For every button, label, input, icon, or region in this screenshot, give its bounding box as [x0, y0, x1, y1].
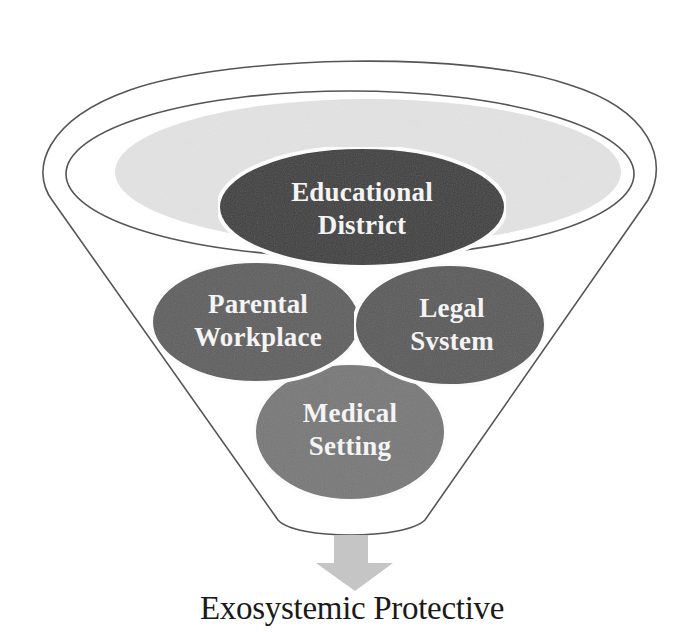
label-medical-setting-line2: Setting: [303, 430, 397, 463]
label-medical-setting-line1: Medical: [303, 397, 397, 430]
down-arrow-icon: [316, 535, 393, 591]
label-parental-workplace: Parental Workplace: [194, 288, 322, 354]
label-legal-system: Legal Svstem: [410, 292, 494, 358]
label-educational-district-line2: District: [291, 209, 433, 242]
label-educational-district-line1: Educational: [291, 176, 433, 209]
funnel-graphic: [0, 0, 699, 632]
label-educational-district: Educational District: [291, 176, 433, 242]
funnel-diagram: Educational District Parental Workplace …: [0, 0, 699, 632]
funnel-caption: Exosystemic Protective: [200, 588, 564, 628]
label-parental-workplace-line2: Workplace: [194, 321, 322, 354]
label-legal-system-line1: Legal: [410, 292, 494, 325]
label-medical-setting: Medical Setting: [303, 397, 397, 463]
label-parental-workplace-line1: Parental: [194, 288, 322, 321]
label-legal-system-line2: Svstem: [410, 325, 494, 358]
